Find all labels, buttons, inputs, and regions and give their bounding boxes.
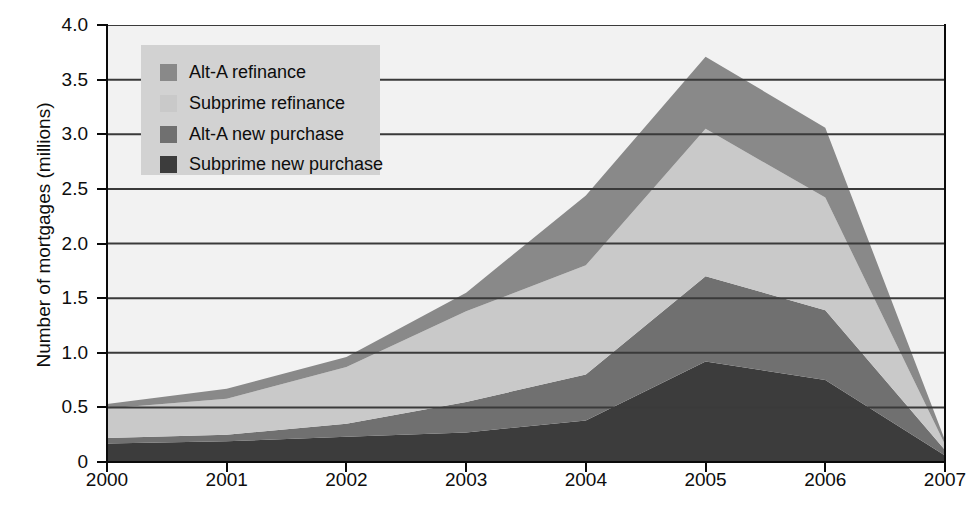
x-tick-label: 2002	[306, 470, 386, 489]
y-tick-mark	[97, 24, 108, 26]
legend-item: Subprime new purchase	[160, 151, 383, 177]
legend-swatch-subprime-refinance	[160, 95, 177, 112]
x-tick-mark	[465, 462, 467, 472]
x-tick-mark	[705, 462, 707, 472]
y-tick-label: 3.0	[32, 124, 88, 143]
y-tick-label: 1.5	[32, 288, 88, 307]
x-tick-mark	[106, 462, 108, 472]
legend-swatch-subprime-new-purchase	[160, 156, 177, 173]
legend-item: Alt-A new purchase	[160, 121, 344, 147]
x-tick-mark	[226, 462, 228, 472]
y-tick-mark	[97, 188, 108, 190]
y-tick-label: 4.0	[32, 15, 88, 34]
chart-legend: Alt-A refinance Subprime refinance Alt-A…	[141, 45, 380, 175]
y-tick-label: 1.0	[32, 343, 88, 362]
y-tick-mark	[97, 79, 108, 81]
stacked-area-chart: Number of mortgages (millions) 00.51.01.…	[0, 0, 977, 513]
x-axis-line	[106, 461, 946, 463]
y-tick-label: 0	[32, 452, 88, 471]
x-tick-label: 2006	[785, 470, 865, 489]
x-tick-label: 2001	[187, 470, 267, 489]
legend-label-subprime-refinance: Subprime refinance	[189, 94, 345, 112]
x-tick-label: 2003	[426, 470, 506, 489]
y-tick-label: 2.0	[32, 234, 88, 253]
y-tick-mark	[97, 352, 108, 354]
x-tick-label: 2000	[67, 470, 147, 489]
legend-label-subprime-new-purchase: Subprime new purchase	[189, 155, 383, 173]
x-tick-mark	[345, 462, 347, 472]
x-tick-label: 2005	[666, 470, 746, 489]
x-tick-mark	[944, 462, 946, 472]
y-tick-label: 2.5	[32, 179, 88, 198]
x-tick-mark	[585, 462, 587, 472]
legend-label-alt-a-refinance: Alt-A refinance	[189, 63, 306, 81]
x-tick-label: 2007	[905, 470, 977, 489]
x-tick-label: 2004	[546, 470, 626, 489]
legend-label-alt-a-new-purchase: Alt-A new purchase	[189, 125, 344, 143]
x-tick-mark	[824, 462, 826, 472]
y-tick-mark	[97, 297, 108, 299]
legend-swatch-alt-a-new-purchase	[160, 126, 177, 143]
legend-swatch-alt-a-refinance	[160, 64, 177, 81]
y-tick-mark	[97, 133, 108, 135]
y-tick-label: 0.5	[32, 397, 88, 416]
legend-item: Subprime refinance	[160, 90, 345, 116]
plot-right-border	[944, 24, 946, 463]
legend-item: Alt-A refinance	[160, 59, 306, 85]
y-tick-mark	[97, 406, 108, 408]
y-tick-mark	[97, 243, 108, 245]
chart-title-clipped	[0, 0, 977, 11]
y-tick-label: 3.5	[32, 70, 88, 89]
